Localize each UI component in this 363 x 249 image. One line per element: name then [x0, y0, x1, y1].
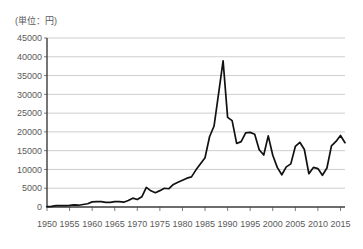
x-tick-label: 1995: [240, 219, 260, 229]
x-tick-label: 2015: [330, 219, 350, 229]
y-tick-label: 35000: [17, 71, 42, 81]
x-tick-label: 1970: [127, 219, 147, 229]
y-tick-label: 45000: [17, 33, 42, 43]
x-tick-label: 1985: [195, 219, 215, 229]
y-tick-label: 10000: [17, 165, 42, 175]
y-tick-label: 30000: [17, 90, 42, 100]
series-line-nikkei: [47, 61, 345, 207]
y-tick-label: 5000: [22, 183, 42, 193]
x-tick-label: 2005: [285, 219, 305, 229]
x-tick-label: 1975: [150, 219, 170, 229]
y-tick-label: 20000: [17, 127, 42, 137]
x-tick-label: 1960: [82, 219, 102, 229]
y-tick-label: 40000: [17, 52, 42, 62]
gridlines: [47, 38, 345, 188]
x-tick-label: 1980: [172, 219, 192, 229]
x-tick-label: 1965: [105, 219, 125, 229]
chart-container: (単位：円) 050001000015000200002500030000350…: [0, 0, 363, 249]
y-tick-label: 15000: [17, 146, 42, 156]
y-tick-label: 25000: [17, 108, 42, 118]
x-axis-tick-labels: 1950195519601965197019751980198519901995…: [37, 219, 351, 229]
y-axis-tick-labels: 0500010000150002000025000300003500040000…: [17, 33, 42, 212]
y-tick-label: 0: [37, 202, 42, 212]
x-tick-label: 2010: [308, 219, 328, 229]
x-tick-label: 1990: [218, 219, 238, 229]
x-tick-label: 1955: [60, 219, 80, 229]
line-chart: 0500010000150002000025000300003500040000…: [0, 0, 363, 249]
axis-lines: [47, 38, 345, 207]
x-tick-label: 1950: [37, 219, 57, 229]
x-tick-label: 2000: [263, 219, 283, 229]
